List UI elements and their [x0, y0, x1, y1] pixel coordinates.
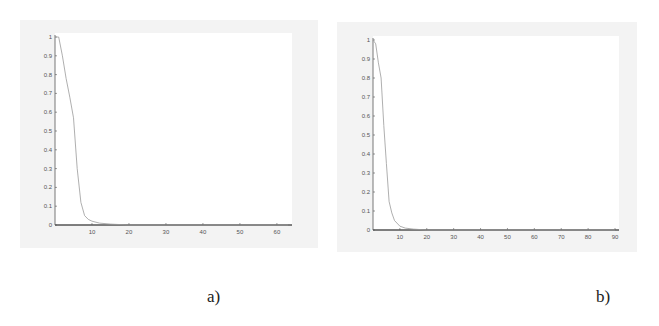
x-tick-label: 50	[504, 234, 511, 240]
x-tick-label: 30	[163, 229, 170, 235]
y-tick-label: 0	[49, 222, 53, 228]
y-tick-label: 0.4	[44, 147, 53, 153]
y-tick-label: 0.6	[44, 109, 53, 115]
y-tick-label: 0.8	[362, 75, 371, 81]
y-tick-label: 0.6	[362, 113, 371, 119]
y-tick-label: 0.1	[362, 208, 371, 214]
x-tick-label: 70	[558, 234, 565, 240]
x-tick-label: 90	[612, 234, 619, 240]
x-tick-label: 40	[477, 234, 484, 240]
x-tick-label: 20	[423, 234, 430, 240]
y-tick-label: 0.7	[362, 94, 371, 100]
plot-area	[55, 33, 292, 225]
y-tick-label: 1	[367, 37, 371, 43]
y-tick-label: 0.9	[362, 56, 371, 62]
figure-a: 00.10.20.30.40.50.60.70.80.9110203040506…	[20, 20, 318, 248]
x-tick-label: 10	[89, 229, 96, 235]
y-tick-label: 0.5	[44, 128, 53, 134]
caption-b: b)	[596, 287, 610, 307]
y-tick-label: 0.8	[44, 72, 53, 78]
y-tick-label: 0.3	[44, 166, 53, 172]
x-tick-label: 50	[237, 229, 244, 235]
plot-area	[373, 36, 619, 230]
x-tick-label: 30	[450, 234, 457, 240]
y-tick-label: 1	[49, 34, 53, 40]
caption-a: a)	[207, 287, 220, 307]
line-chart-b: 00.10.20.30.40.50.60.70.80.9110203040506…	[337, 22, 637, 252]
y-tick-label: 0.2	[362, 189, 371, 195]
y-tick-label: 0	[367, 227, 371, 233]
y-tick-label: 0.2	[44, 184, 53, 190]
y-tick-label: 0.4	[362, 151, 371, 157]
x-tick-label: 80	[585, 234, 592, 240]
y-tick-label: 0.9	[44, 53, 53, 59]
y-tick-label: 0.7	[44, 90, 53, 96]
x-tick-label: 40	[200, 229, 207, 235]
x-tick-label: 60	[274, 229, 281, 235]
y-tick-label: 0.5	[362, 132, 371, 138]
line-chart-a: 00.10.20.30.40.50.60.70.80.9110203040506…	[20, 20, 318, 248]
x-tick-label: 60	[531, 234, 538, 240]
y-tick-label: 0.1	[44, 203, 53, 209]
x-tick-label: 20	[126, 229, 133, 235]
figure-b: 00.10.20.30.40.50.60.70.80.9110203040506…	[337, 22, 637, 252]
y-tick-label: 0.3	[362, 170, 371, 176]
x-tick-label: 10	[397, 234, 404, 240]
